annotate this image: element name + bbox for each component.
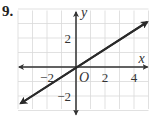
svg-text:2: 2 (65, 31, 72, 46)
svg-text:2: 2 (102, 70, 109, 85)
svg-text:4: 4 (131, 70, 138, 85)
plotted-line (21, 22, 147, 103)
grid (18, 9, 149, 111)
x-axis-label: x (138, 51, 146, 66)
coordinate-plane: −2242−2 x y O (0, 0, 159, 119)
y-axis-label: y (79, 5, 88, 20)
svg-text:−2: −2 (57, 89, 71, 104)
origin-label: O (79, 70, 89, 85)
